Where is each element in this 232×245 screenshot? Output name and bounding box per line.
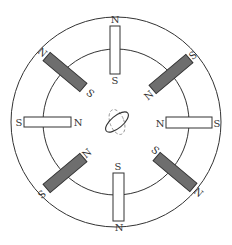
magnet-ring-diagram: N S S N S N N S N S S (0, 0, 232, 245)
pole-label-left-inner: N (74, 117, 83, 128)
pole-label-top-outer: N (111, 14, 120, 25)
pole-label-right-outer: S (214, 118, 221, 129)
diagram-canvas: N S S N S N N S N S S (0, 0, 232, 245)
magnet-bottom-left: N S (36, 146, 94, 201)
pole-label-left-outer: S (16, 117, 23, 128)
pole-label-bottomleft-outer: S (36, 188, 48, 201)
pole-label-bottom-outer: N (115, 222, 124, 233)
magnet-left: S N (16, 117, 83, 128)
magnet-top: N S (110, 14, 120, 86)
pole-label-bottom-inner: S (115, 161, 122, 172)
compass-needle-icon (102, 107, 131, 136)
magnet-bottom: S N (113, 161, 124, 233)
magnet-bottom-right: S N (149, 144, 205, 200)
pole-label-right-inner: N (156, 118, 165, 129)
magnet-right: N S (156, 117, 221, 129)
magnet-top-left: N S (35, 45, 96, 100)
pole-label-topleft-inner: S (84, 87, 96, 100)
magnet-top-right: S N (142, 49, 199, 103)
pole-label-top-inner: S (112, 75, 119, 86)
